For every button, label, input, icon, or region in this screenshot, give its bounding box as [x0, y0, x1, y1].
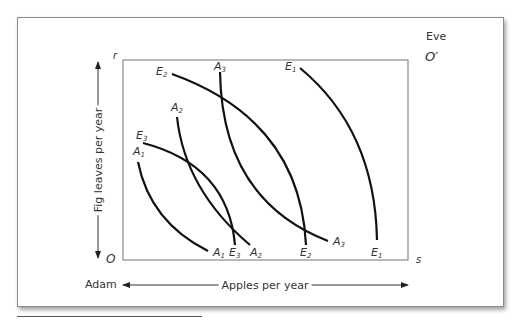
curve-E1	[300, 68, 377, 240]
corner-r-label: r	[113, 51, 117, 61]
label-E3-top: E3	[136, 130, 147, 143]
label-E1-top: E1	[285, 61, 296, 74]
label-E2-top: E2	[156, 66, 167, 79]
label-A2-top: A2	[171, 102, 183, 115]
label-A3-top: A3	[214, 61, 226, 74]
label-A1-top: A1	[133, 146, 145, 159]
footnote-rule	[17, 316, 202, 317]
edgeworth-box	[123, 60, 408, 260]
label-E3-bottom: E3	[229, 247, 240, 260]
label-A3-bottom: A3	[333, 236, 345, 249]
label-A2-bottom: A2	[250, 247, 262, 260]
edgeworth-box-diagram	[0, 0, 529, 321]
label-E2-bottom: E2	[300, 247, 311, 260]
x-axis-label: Apples per year	[219, 279, 312, 292]
curve-A2	[177, 117, 250, 245]
origin-adam-label: O	[106, 253, 115, 265]
y-axis-label: Fig leaves per year	[92, 105, 105, 215]
label-E1-bottom: E1	[371, 247, 382, 260]
curve-E3	[143, 143, 235, 245]
curve-A3	[220, 72, 328, 241]
curve-A1	[138, 162, 208, 251]
label-A1-bottom: A1	[213, 247, 225, 260]
adam-label: Adam	[85, 279, 117, 290]
eve-label: Eve	[426, 31, 446, 42]
corner-s-label: s	[416, 255, 421, 265]
origin-eve-label: O′	[425, 50, 438, 63]
